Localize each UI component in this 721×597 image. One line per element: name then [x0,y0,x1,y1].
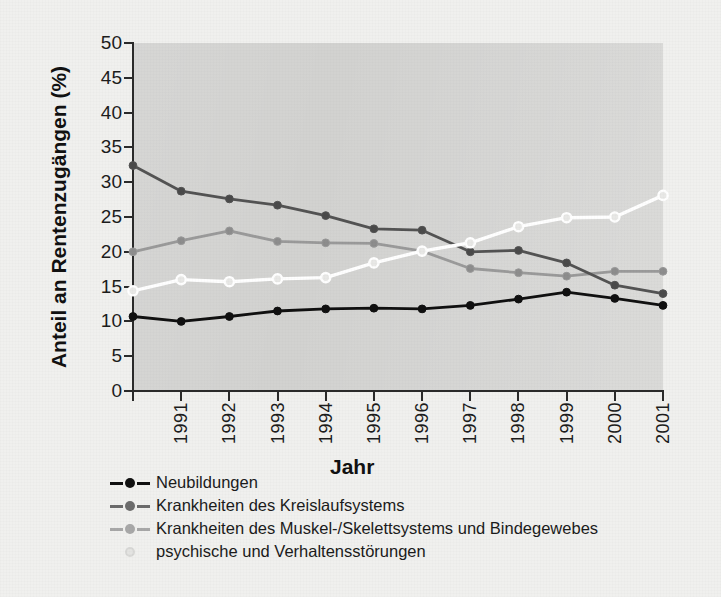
data-point [515,269,523,277]
data-point [659,290,667,298]
data-point [611,295,619,303]
chart-legend: NeubildungenKrankheiten des Kreislaufsys… [108,471,708,563]
data-point [274,307,282,315]
data-point [226,313,234,321]
data-point [226,227,234,235]
filled-circle-icon [125,501,135,511]
data-point [129,313,137,321]
data-point [274,238,282,246]
data-point [225,277,234,286]
data-point [177,275,186,284]
data-point [514,222,523,231]
filled-circle-icon [125,524,135,534]
data-point [322,305,330,313]
data-point [515,247,523,255]
data-point [466,238,475,247]
data-point [466,265,474,273]
legend-label: Neubildungen [152,473,258,492]
data-point [322,212,330,220]
data-point [659,267,667,275]
data-point [369,258,378,267]
y-axis-title: Anteil an Rentenzugängen (%) [47,27,71,407]
data-point [370,304,378,312]
chart-page: 05101520253035404550 1991199219931994199… [0,0,721,597]
data-point [659,302,667,310]
data-point [563,288,571,296]
legend-line-left [110,528,123,531]
legend-marker-icon [108,471,152,494]
data-point [418,305,426,313]
data-point [177,237,185,245]
data-point [418,247,427,256]
data-point [370,225,378,233]
series-line [133,292,663,321]
legend-line-right [137,482,150,485]
legend-line-right [137,528,150,531]
data-point [466,248,474,256]
legend-label: Krankheiten des Muskel-/Skelettsystems u… [152,519,598,538]
data-point [128,286,137,295]
line-chart: 05101520253035404550 1991199219931994199… [0,0,721,597]
data-point [610,212,619,221]
filled-circle-icon [125,478,135,488]
series-line [133,195,663,290]
data-point [322,239,330,247]
legend-label: psychische und Verhaltensstörungen [152,542,426,561]
legend-item[interactable]: Krankheiten des Muskel-/Skelettsystems u… [108,517,708,540]
data-point [466,302,474,310]
legend-marker-icon [108,517,152,540]
data-point [370,240,378,248]
data-point [177,187,185,195]
data-point [611,267,619,275]
data-point [563,259,571,267]
legend-item[interactable]: Krankheiten des Kreislaufsystems [108,494,708,517]
data-point [274,201,282,209]
data-point [562,213,571,222]
series-1 [129,162,667,298]
legend-marker-icon [108,540,152,563]
legend-line-right [137,505,150,508]
legend-item[interactable]: Neubildungen [108,471,708,494]
data-point [418,226,426,234]
data-point [321,273,330,282]
data-point [273,274,282,283]
legend-marker-icon [108,494,152,517]
data-point [563,272,571,280]
open-circle-icon [125,547,135,557]
legend-line-left [110,505,123,508]
series-0 [129,288,667,325]
data-point [129,248,137,256]
data-point [611,281,619,289]
data-point [226,195,234,203]
data-point [658,191,667,200]
data-point [177,318,185,326]
data-point [515,295,523,303]
series-3 [128,191,667,296]
legend-line-left [110,482,123,485]
legend-item[interactable]: psychische und Verhaltensstörungen [108,540,708,563]
legend-label: Krankheiten des Kreislaufsystems [152,496,405,515]
data-point [129,162,137,170]
